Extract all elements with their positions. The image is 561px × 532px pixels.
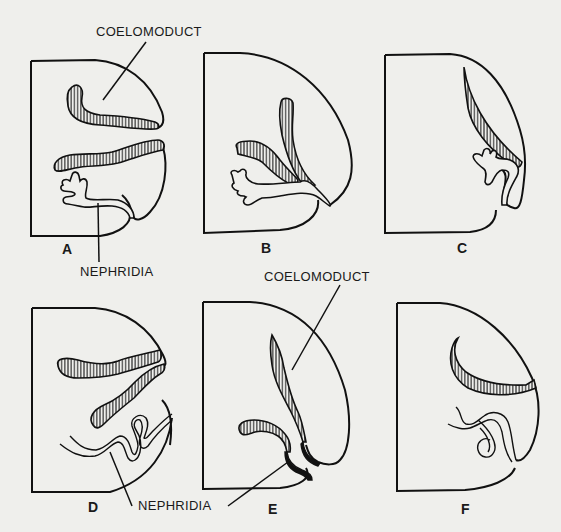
panel-d-outline xyxy=(32,308,172,492)
coelomoduct-a-upper xyxy=(67,85,159,129)
panel-c-outline xyxy=(385,54,525,233)
nephridia-f-tube xyxy=(448,407,516,462)
panel-f xyxy=(397,303,539,491)
panel-letter-a: A xyxy=(62,241,72,257)
panel-letter-d: D xyxy=(88,499,98,515)
panel-a xyxy=(31,42,165,262)
panel-e-outline xyxy=(203,302,349,489)
panel-f-outline xyxy=(397,303,539,491)
nephridia-label-bottom: NEPHRIDIA xyxy=(138,498,212,513)
panel-b xyxy=(204,53,352,233)
coelomoduct-a-leader xyxy=(103,42,146,100)
panel-d xyxy=(32,308,172,506)
nephridia-label-top: NEPHRIDIA xyxy=(80,264,154,279)
nephridia-d-leader xyxy=(110,452,132,506)
panel-letter-e: E xyxy=(268,501,277,517)
panel-letter-b: B xyxy=(261,240,271,256)
nephridia-e-hatched xyxy=(239,420,290,452)
nephridia-e-leader xyxy=(228,462,288,506)
nephridia-a-leader xyxy=(98,203,99,262)
coelomoduct-a-lower xyxy=(54,140,164,171)
panel-letter-c: C xyxy=(457,240,467,256)
panel-letter-f: F xyxy=(461,501,470,517)
nephridia-d-tube xyxy=(60,414,172,461)
coelomoduct-label-bottom: COELOMODUCT xyxy=(264,269,370,284)
coelomoduct-f xyxy=(451,338,536,395)
coelomoduct-label-top: COELOMODUCT xyxy=(96,24,202,39)
panel-e xyxy=(203,285,349,506)
panel-c xyxy=(385,54,525,233)
